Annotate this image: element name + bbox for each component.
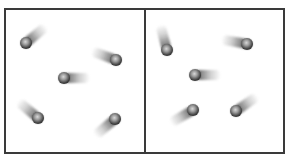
particle-ball-icon — [109, 113, 121, 125]
gas-particles-diagram — [0, 0, 289, 161]
particle-ball-icon — [187, 104, 199, 116]
particle-ball-icon — [241, 38, 253, 50]
particle-ball-icon — [161, 44, 173, 56]
particle-ball-icon — [32, 112, 44, 124]
particle-ball-icon — [58, 72, 70, 84]
particle-ball-icon — [20, 37, 32, 49]
particle-ball-icon — [189, 69, 201, 81]
particle-ball-icon — [230, 105, 242, 117]
particle-ball-icon — [110, 54, 122, 66]
